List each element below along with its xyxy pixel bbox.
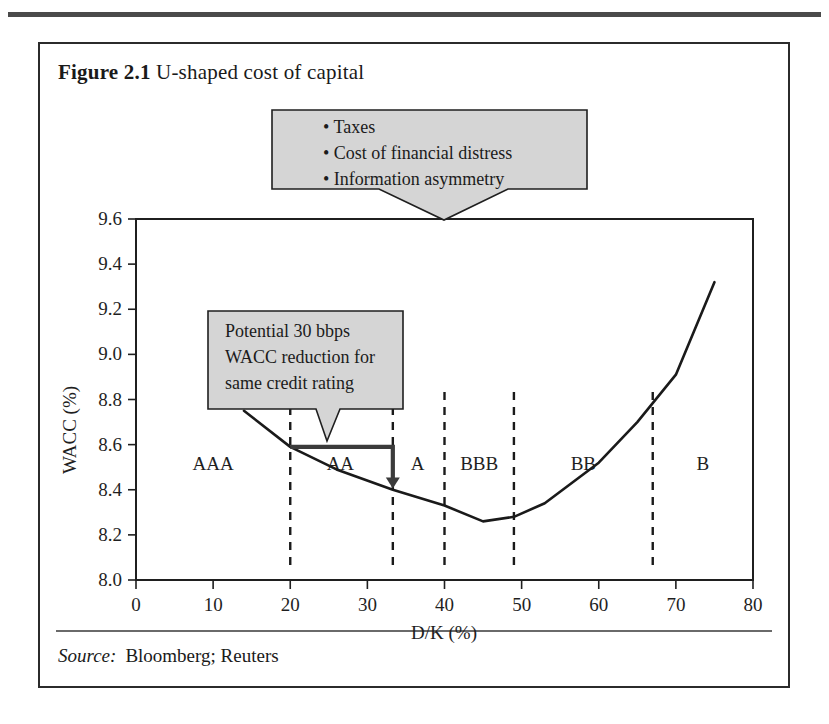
source-divider — [56, 630, 772, 632]
page-root: Figure 2.1 U-shaped cost of capital Sour… — [0, 0, 829, 724]
figure-frame — [38, 42, 790, 688]
figure-title: Figure 2.1 U-shaped cost of capital — [58, 60, 364, 85]
figure-title-text: U-shaped cost of capital — [156, 60, 364, 84]
figure-number: Figure 2.1 — [58, 60, 151, 84]
source-line: Source:Bloomberg; Reuters — [58, 645, 279, 667]
source-label: Source: — [58, 645, 116, 666]
page-top-rule — [8, 12, 821, 17]
source-value: Bloomberg; Reuters — [125, 645, 278, 666]
